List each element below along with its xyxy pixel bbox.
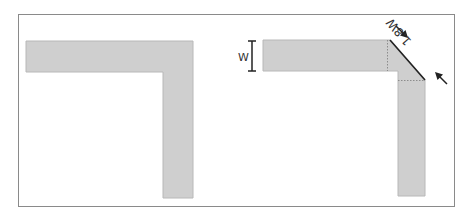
width-label: W [238,51,249,64]
trace-bend-diagram: W 1.8W [0,0,473,215]
